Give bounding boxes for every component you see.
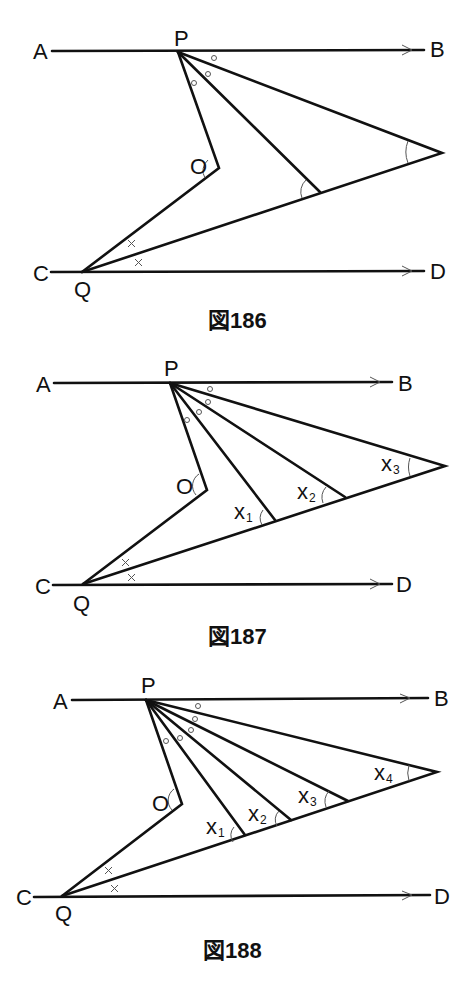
- figure-caption: 図188: [203, 938, 262, 963]
- svg-text:3: 3: [393, 463, 400, 477]
- equal-angle-circle-icon: [178, 736, 183, 741]
- equal-angle-circle-icon: [193, 717, 198, 722]
- ray-x2: [170, 383, 345, 497]
- svg-text:x: x: [248, 801, 259, 826]
- equal-angle-circle-icon: [208, 387, 213, 392]
- angle-arc-x3: [409, 458, 410, 476]
- equal-angle-circle-icon: [212, 56, 217, 61]
- equal-angle-cross-icon: [105, 867, 112, 874]
- path-p-vertex-q: [62, 700, 437, 896]
- line-cd: [51, 271, 424, 272]
- angle-arc-x3: [325, 791, 329, 807]
- label-p: P: [164, 356, 179, 381]
- path-p-vertex-q: [83, 383, 445, 584]
- angle-arc: [406, 141, 408, 163]
- ray-x1: [170, 383, 275, 520]
- equal-angle-circle-icon: [197, 410, 202, 415]
- label-d: D: [434, 884, 450, 909]
- equal-angle-circle-icon: [206, 72, 211, 77]
- figure-caption: 図186: [208, 308, 267, 333]
- equal-angle-cross-icon: [128, 574, 135, 581]
- figure-186: A B P O C D Q 図186: [33, 26, 446, 333]
- angle-label-x2: x 2: [248, 801, 267, 827]
- label-c: C: [35, 574, 51, 599]
- svg-text:x: x: [297, 479, 308, 504]
- label-p: P: [174, 26, 189, 51]
- svg-text:x: x: [298, 783, 309, 808]
- label-p: P: [141, 673, 156, 698]
- angle-label-x3: x 3: [381, 451, 400, 477]
- geometry-figures: A B P O C D Q 図186 A B P O C: [0, 0, 475, 988]
- figure-187: A B P O C D Q x 1 x 2 x 3 図187: [35, 356, 445, 649]
- label-d: D: [396, 572, 412, 597]
- equal-angle-cross-icon: [111, 885, 118, 892]
- equal-angle-cross-icon: [128, 240, 135, 247]
- angle-arc-x2: [322, 487, 326, 503]
- label-q: Q: [73, 591, 90, 616]
- svg-text:2: 2: [309, 491, 316, 505]
- svg-text:1: 1: [218, 826, 225, 840]
- angle-label-x1: x 1: [206, 814, 225, 840]
- line-ab: [54, 382, 392, 383]
- label-a: A: [36, 372, 51, 397]
- equal-angle-circle-icon: [164, 739, 169, 744]
- svg-text:x: x: [234, 499, 245, 524]
- angle-arc-o: [193, 474, 199, 495]
- svg-text:x: x: [381, 451, 392, 476]
- angle-arc-x1: [260, 510, 263, 525]
- equal-angle-circle-icon: [196, 704, 201, 709]
- line-cd: [53, 584, 392, 585]
- equal-angle-circle-icon: [192, 81, 197, 86]
- line-cd: [34, 895, 430, 897]
- angle-label-x2: x 2: [297, 479, 316, 505]
- label-c: C: [33, 261, 49, 286]
- svg-text:3: 3: [310, 795, 317, 809]
- angle-label-x1: x 1: [234, 499, 253, 525]
- label-a: A: [33, 39, 48, 64]
- label-c: C: [16, 885, 32, 910]
- label-q: Q: [74, 277, 91, 302]
- equal-angle-circle-icon: [206, 400, 211, 405]
- svg-text:x: x: [374, 760, 385, 785]
- line-ab: [52, 50, 424, 51]
- angle-arc: [301, 180, 306, 198]
- label-q: Q: [55, 901, 72, 926]
- path-p-vertex-q: [82, 52, 442, 272]
- figure-188: A B P O C D Q x 1 x 2 x 3 x 4 図188: [16, 673, 450, 963]
- label-o: O: [176, 474, 193, 499]
- equal-angle-cross-icon: [135, 259, 142, 266]
- label-a: A: [53, 689, 68, 714]
- angle-label-x4: x 4: [374, 760, 393, 786]
- equal-angle-cross-icon: [122, 559, 129, 566]
- equal-angle-circle-icon: [189, 728, 194, 733]
- angle-label-x3: x 3: [298, 783, 317, 809]
- label-b: B: [398, 371, 413, 396]
- angle-arc-x4: [408, 765, 409, 781]
- figure-caption: 図187: [208, 624, 267, 649]
- svg-text:x: x: [206, 814, 217, 839]
- equal-angle-circle-icon: [185, 418, 190, 423]
- line-ab: [72, 698, 428, 700]
- label-b: B: [430, 37, 445, 62]
- svg-text:1: 1: [246, 511, 253, 525]
- label-d: D: [430, 259, 446, 284]
- label-b: B: [434, 686, 449, 711]
- svg-text:4: 4: [386, 772, 393, 786]
- label-o: O: [152, 791, 169, 816]
- svg-text:2: 2: [260, 813, 267, 827]
- label-o: O: [190, 154, 207, 179]
